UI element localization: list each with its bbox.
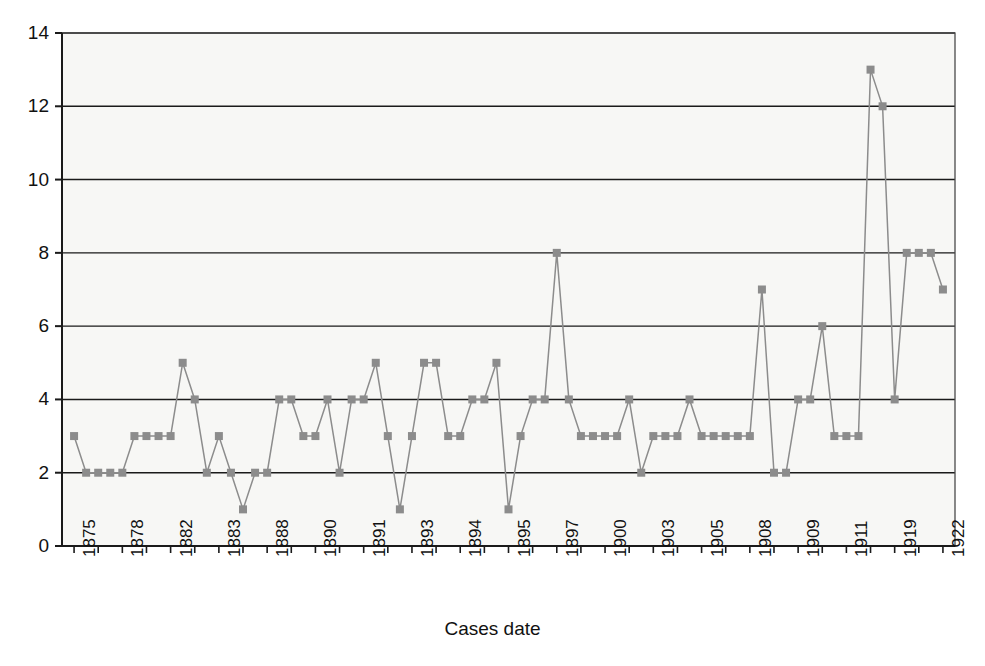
x-tick-label: 1883 [226, 519, 243, 557]
x-tick-label: 1922 [950, 519, 967, 557]
y-tick-label: 2 [9, 463, 49, 482]
x-tick-label: 1908 [757, 519, 774, 557]
x-tick-label: 1890 [322, 519, 339, 557]
x-tick-label: 1891 [371, 519, 388, 557]
chart-container: 02468101214 1875187818821883188818901891… [0, 0, 985, 666]
x-tick-label: 1875 [81, 519, 98, 557]
y-tick-label: 8 [9, 243, 49, 262]
y-tick-label: 0 [9, 536, 49, 555]
line-chart-plot [0, 0, 985, 666]
x-tick-label: 1909 [805, 519, 822, 557]
x-axis-title: Cases date [0, 618, 985, 640]
x-tick-label: 1905 [709, 519, 726, 557]
plot-background [62, 33, 955, 546]
x-tick-label: 1903 [660, 519, 677, 557]
y-tick-label: 10 [9, 170, 49, 189]
y-tick-label: 4 [9, 389, 49, 408]
x-tick-label: 1888 [274, 519, 291, 557]
x-tick-label: 1895 [516, 519, 533, 557]
x-tick-label: 1894 [467, 519, 484, 557]
x-tick-label: 1882 [178, 519, 195, 557]
x-tick-label: 1878 [129, 519, 146, 557]
x-tick-label: 1919 [902, 519, 919, 557]
x-tick-label: 1893 [419, 519, 436, 557]
y-tick-label: 12 [9, 96, 49, 115]
y-tick-label: 14 [9, 23, 49, 42]
x-tick-label: 1897 [564, 519, 581, 557]
y-tick-label: 6 [9, 316, 49, 335]
x-tick-label: 1900 [612, 519, 629, 557]
x-tick-label: 1911 [853, 520, 870, 557]
